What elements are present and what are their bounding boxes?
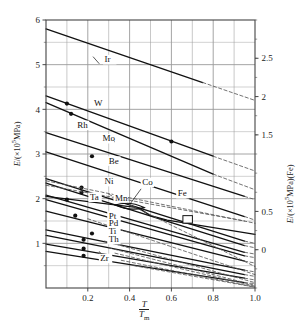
- series-label-rh: Rh: [77, 120, 88, 130]
- figure-root: 0.20.40.60.81.012345600.51.522.5 IrWRhMo…: [0, 0, 300, 333]
- data-point-marker: [65, 197, 69, 201]
- y-tick-label-right: 2.5: [262, 53, 274, 63]
- data-point-marker: [90, 231, 94, 235]
- series-line-dashed: [245, 270, 255, 272]
- data-point-marker: [169, 139, 173, 143]
- x-tick-label: 1.0: [249, 293, 261, 303]
- y-tick-label-right: 2: [262, 92, 267, 102]
- series-line: [46, 251, 245, 282]
- series-label-fe: Fe: [178, 188, 187, 198]
- series-label-w: W: [94, 98, 103, 108]
- x-tick-label: 0.6: [166, 293, 178, 303]
- data-point-marker: [82, 254, 86, 258]
- co-leader-line: [131, 189, 141, 203]
- series-line-dashed: [245, 256, 255, 258]
- series-line: [46, 29, 203, 83]
- series-label-zr: Zr: [100, 253, 109, 263]
- label-leader-line: [93, 57, 99, 64]
- series-label-mo: Mo: [102, 133, 115, 143]
- series-line-dashed: [245, 278, 255, 280]
- y-tick-label-right: 0.5: [262, 207, 274, 217]
- data-point-marker: [73, 214, 77, 218]
- series-line: [46, 244, 245, 278]
- data-point-marker: [90, 154, 94, 158]
- data-point-marker: [82, 247, 86, 251]
- series-label-ta: Ta: [90, 192, 99, 202]
- series-line: [46, 235, 245, 274]
- y-tick-label-left: 5: [36, 60, 41, 70]
- series-label-ir: Ir: [105, 54, 111, 64]
- series-line-dashed: [245, 275, 255, 277]
- series-label-co: Co: [142, 177, 153, 187]
- y-tick-label-left: 1: [36, 239, 41, 249]
- data-point-marker: [65, 101, 69, 105]
- y-tick-label-left: 6: [36, 15, 41, 25]
- series-label-mn: Mn: [115, 193, 128, 203]
- x-axis-label: T Tm: [139, 300, 149, 322]
- y-tick-label-right: 1.5: [262, 130, 274, 140]
- fe-step-box: [183, 216, 193, 224]
- series-line-dashed: [245, 217, 255, 221]
- series-label-be: Be: [109, 156, 119, 166]
- y-tick-label-left: 4: [36, 105, 41, 115]
- data-point-marker: [82, 238, 86, 242]
- line-chart: 0.20.40.60.81.012345600.51.522.5 IrWRhMo…: [0, 0, 300, 333]
- x-axis-label-numerator: T: [139, 300, 149, 309]
- y-axis-label-left: E/(×105MPa): [10, 99, 22, 189]
- x-tick-label: 0.8: [208, 293, 220, 303]
- series-label-ni: Ni: [105, 176, 114, 186]
- series-line-dashed: [109, 248, 255, 286]
- x-axis-label-denominator: Tm: [139, 309, 149, 322]
- grid-layer: [46, 20, 255, 288]
- series-line-dashed: [203, 83, 255, 101]
- y-tick-label-left: 2: [36, 194, 41, 204]
- y-tick-label-left: 3: [36, 149, 41, 159]
- y-tick-label-right: 0: [262, 245, 267, 255]
- data-point-marker: [69, 112, 73, 116]
- y-axis-label-right: E/(×105MPa)(Fe): [283, 141, 295, 247]
- series-line: [46, 179, 245, 242]
- series-label-th: Th: [109, 234, 119, 244]
- x-tick-label: 0.2: [82, 293, 93, 303]
- x-tick-label: 0.4: [124, 293, 136, 303]
- chart-canvas: 0.20.40.60.81.012345600.51.522.5 IrWRhMo…: [0, 0, 300, 333]
- data-point-marker: [79, 190, 83, 194]
- series-line-dashed: [245, 246, 255, 248]
- series-line-dashed: [245, 252, 255, 254]
